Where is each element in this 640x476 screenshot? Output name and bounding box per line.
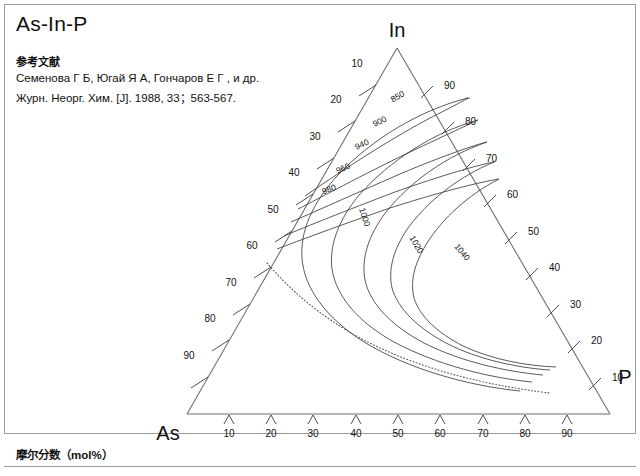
- contour-1020-inner: [391, 162, 550, 370]
- contour-label-1000: 1000: [357, 207, 372, 228]
- contour-label-960: 960: [334, 161, 351, 176]
- contour-label-850: 850: [389, 88, 406, 104]
- bottom-tick-label: 80: [519, 428, 531, 439]
- left-tick-label: 90: [183, 350, 195, 361]
- contour-label-900: 900: [371, 114, 388, 129]
- right-tick-label: 10: [612, 372, 624, 383]
- dotted-phase-boundary: [267, 263, 551, 393]
- left-tick-label: 60: [246, 240, 258, 251]
- contour-1000-inner: [331, 120, 532, 382]
- contour-label-940: 940: [353, 137, 370, 152]
- right-tick-label: 90: [444, 80, 456, 91]
- edge-right-In-P: [397, 48, 610, 414]
- ternary-phase-diagram: In As P 10 20 30 40 50 60 70 80 90: [0, 0, 640, 476]
- left-tick-label: 20: [330, 94, 342, 105]
- contour-850: [305, 98, 468, 196]
- phase-diagram-page: As-In-P 参考文献 Семенова Г Б, Югай Я А, Гон…: [0, 0, 640, 476]
- bottom-tick-label: 40: [350, 428, 362, 439]
- left-tick-label: 40: [288, 167, 300, 178]
- left-tick-label: 80: [204, 313, 216, 324]
- right-axis-ticks: 10 20 30 40 50 60 70 80 90: [421, 80, 624, 390]
- right-tick-label: 30: [570, 299, 582, 310]
- left-tick-label: 30: [309, 131, 321, 142]
- bottom-tick-label: 30: [307, 428, 319, 439]
- left-tick-label: 10: [351, 58, 363, 69]
- right-tick-label: 60: [507, 189, 519, 200]
- right-tick-label: 20: [591, 335, 603, 346]
- left-tick-label: 70: [225, 277, 237, 288]
- bottom-tick-label: 20: [265, 428, 277, 439]
- contour-label-1020: 1020: [408, 234, 426, 256]
- right-tick-label: 40: [549, 262, 561, 273]
- bottom-axis-ticks: 10 20 30 40 50 60 70 80 90: [223, 415, 573, 439]
- corner-label-as: As: [156, 422, 179, 444]
- contour-label-1040: 1040: [452, 242, 472, 263]
- contour-1040-inner: [466, 98, 470, 99]
- right-tick-label: 50: [528, 226, 540, 237]
- bottom-tick-label: 50: [392, 428, 404, 439]
- bottom-tick-label: 90: [561, 428, 573, 439]
- bottom-tick-label: 70: [477, 428, 489, 439]
- contour-960: [284, 162, 494, 236]
- corner-label-in: In: [389, 19, 406, 41]
- triangle-edges: [187, 48, 610, 414]
- bottom-tick-label: 60: [434, 428, 446, 439]
- left-tick-label: 50: [267, 204, 279, 215]
- bottom-tick-label: 10: [223, 428, 235, 439]
